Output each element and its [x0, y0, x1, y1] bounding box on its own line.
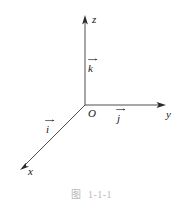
- x-axis-line: [26, 105, 85, 164]
- figure-caption: 图1-1-1: [0, 186, 183, 201]
- vector-arrow-accent-j: [115, 107, 127, 111]
- unit-vector-k-letter: k: [88, 62, 93, 74]
- origin-label: O: [88, 108, 96, 119]
- unit-vector-j: j: [117, 113, 120, 124]
- unit-vector-j-letter: j: [117, 112, 120, 124]
- z-axis-label: z: [92, 14, 96, 25]
- figure-caption-number: 1-1-1: [88, 189, 112, 200]
- figure-caption-prefix: 图: [71, 189, 82, 200]
- y-axis-label: y: [166, 109, 171, 120]
- unit-vector-k: k: [88, 63, 93, 74]
- coordinate-system-figure: z y x O k j i 图: [0, 0, 183, 212]
- unit-vector-i-letter: i: [46, 123, 49, 135]
- axes-drawing: [0, 0, 183, 212]
- unit-vector-i: i: [46, 124, 49, 135]
- x-axis-label: x: [28, 166, 33, 177]
- vector-arrow-accent-i: [44, 118, 56, 122]
- vector-arrow-accent-k: [87, 57, 99, 61]
